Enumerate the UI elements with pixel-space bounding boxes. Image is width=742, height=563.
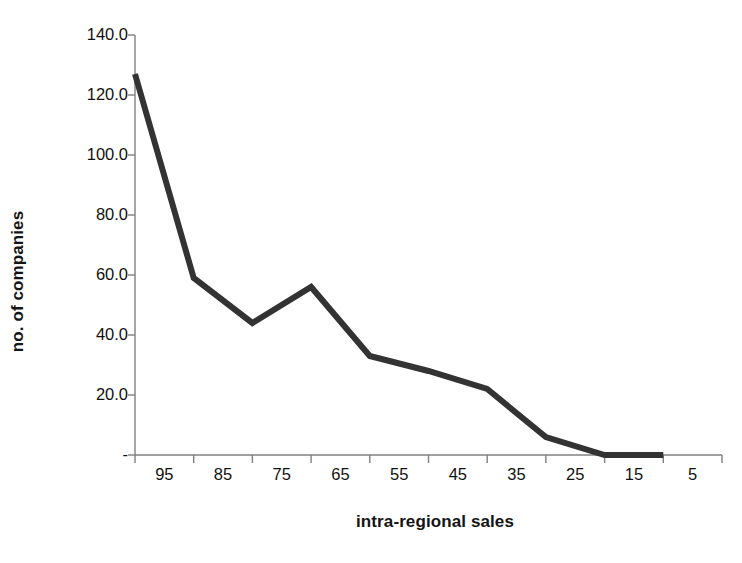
x-axis-tick-label: 15	[614, 466, 654, 483]
x-axis-title: intra-regional sales	[135, 512, 735, 532]
x-axis-tick-labels: 9585756555453525155	[0, 0, 742, 563]
x-axis-tick-label: 25	[555, 466, 595, 483]
x-axis-tick-label: 95	[144, 466, 184, 483]
x-axis-tick-label: 5	[673, 466, 713, 483]
x-axis-tick-label: 85	[203, 466, 243, 483]
line-chart: no. of companies -20.040.060.080.0100.01…	[0, 0, 742, 563]
x-axis-tick-label: 35	[497, 466, 537, 483]
x-axis-tick-label: 45	[438, 466, 478, 483]
x-axis-tick-label: 65	[320, 466, 360, 483]
x-axis-tick-label: 55	[379, 466, 419, 483]
x-axis-tick-label: 75	[262, 466, 302, 483]
